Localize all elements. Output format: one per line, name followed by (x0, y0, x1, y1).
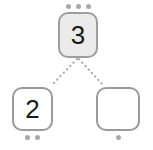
number-card-top[interactable]: 3 (58, 12, 98, 58)
dot-indicator (66, 4, 71, 9)
dot-indicator (76, 4, 81, 9)
dot-indicator (86, 4, 91, 9)
number-card-value: 2 (25, 96, 39, 122)
dot-indicator (116, 135, 121, 140)
diagram-canvas: 3 2 (0, 0, 153, 150)
dot-row-right (96, 134, 140, 140)
number-card-left[interactable]: 2 (12, 87, 53, 131)
dot-row-left (12, 134, 53, 140)
number-card-right[interactable] (96, 87, 140, 131)
number-card-value: 3 (71, 22, 85, 48)
dot-indicator (35, 135, 40, 140)
dot-indicator (25, 135, 30, 140)
dot-row-top (58, 3, 98, 9)
connector-top-to-right (79, 59, 104, 86)
connector-top-to-left (51, 59, 77, 86)
